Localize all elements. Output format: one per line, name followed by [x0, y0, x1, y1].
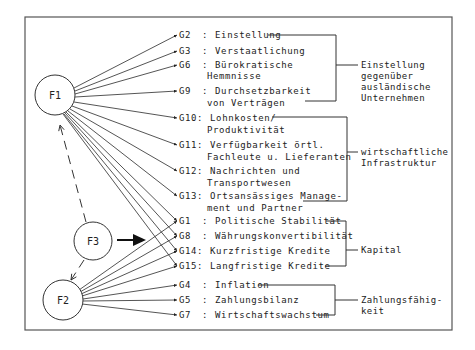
svg-text:ment und Partner: ment und Partner	[207, 203, 303, 213]
variable-g7: G7 :Wirtschaftswachstum	[179, 310, 329, 320]
svg-text:G10:Lohnkosten/: G10:Lohnkosten/	[179, 113, 276, 123]
svg-text:wirtschaftliche: wirtschaftliche	[361, 147, 448, 157]
group-label-zahlungsfaehigkeit: Zahlungsfähig- keit	[361, 295, 442, 316]
node-f3[interactable]: F3	[74, 222, 112, 260]
svg-text:G3 :Verstaatlichung: G3 :Verstaatlichung	[179, 46, 305, 56]
svg-text:G2 :Einstellung: G2 :Einstellung	[179, 30, 281, 40]
svg-text:G9 :Durchsetzbarkeit: G9 :Durchsetzbarkeit	[179, 86, 311, 96]
svg-text:Produktivität: Produktivität	[207, 125, 285, 135]
svg-text:Zahlungsfähig-: Zahlungsfähig-	[361, 295, 442, 305]
factor-diagram: F1 F3 F2 G2 :Einstellung G3 :Verstaatlic…	[0, 0, 475, 350]
variable-g15: G15:Langfristige Kredite	[179, 261, 330, 271]
variable-g4: G4 :Inflation	[179, 280, 269, 290]
svg-text:Hemmnisse: Hemmnisse	[207, 71, 261, 81]
svg-text:Einstellung: Einstellung	[361, 60, 425, 70]
node-f1[interactable]: F1	[35, 75, 75, 115]
svg-text:Transportwesen: Transportwesen	[207, 178, 291, 188]
variable-g9: G9 :Durchsetzbarkeit von Verträgen	[179, 86, 311, 108]
variable-g12: G12:Nachrichten und Transportwesen	[179, 166, 300, 188]
thick-arrow-f3	[117, 234, 146, 246]
svg-text:Fachleute u. Lieferanten: Fachleute u. Lieferanten	[207, 152, 351, 162]
variable-g11: G11:Verfügbarkeit örtl. Fachleute u. Lie…	[179, 140, 351, 162]
svg-text:ausländische: ausländische	[361, 82, 431, 92]
svg-text:Unternehmen: Unternehmen	[361, 93, 425, 103]
svg-text:von Verträgen: von Verträgen	[207, 98, 285, 108]
node-f1-label: F1	[49, 90, 61, 101]
variable-g13: G13:Ortsansässiges Manage- ment und Part…	[179, 191, 343, 213]
node-f2[interactable]: F2	[43, 280, 83, 320]
variable-g1: G1 :Politische Stabilität	[179, 216, 341, 226]
svg-text:G4 :Inflation: G4 :Inflation	[179, 280, 269, 290]
svg-text:Kapital: Kapital	[361, 245, 402, 255]
node-f3-label: F3	[87, 236, 99, 247]
svg-text:G13:Ortsansässiges Manage-: G13:Ortsansässiges Manage-	[179, 191, 343, 201]
bracket-kapital	[325, 221, 358, 266]
variable-g5: G5 :Zahlungsbilanz	[179, 295, 299, 305]
svg-text:gegenüber: gegenüber	[361, 71, 414, 81]
dashed-arrow-f3-to-f2	[71, 260, 84, 280]
group-label-infrastruktur: wirtschaftliche Infrastruktur	[361, 147, 448, 168]
svg-text:G7 :Wirtschaftswachstum: G7 :Wirtschaftswachstum	[179, 310, 329, 320]
svg-text:G11:Verfügbarkeit örtl.: G11:Verfügbarkeit örtl.	[179, 140, 324, 150]
svg-text:G5 :Zahlungsbilanz: G5 :Zahlungsbilanz	[179, 295, 299, 305]
group-label-kapital: Kapital	[361, 245, 402, 255]
svg-text:G8 :Währungskonvertibilität: G8 :Währungskonvertibilität	[179, 231, 354, 241]
variable-g3: G3 :Verstaatlichung	[179, 46, 305, 56]
variable-list: G2 :Einstellung G3 :Verstaatlichung G6 :…	[179, 30, 354, 320]
variable-g8: G8 :Währungskonvertibilität	[179, 231, 354, 241]
svg-text:G14:Kurzfristige Kredite: G14:Kurzfristige Kredite	[179, 246, 330, 256]
variable-g2: G2 :Einstellung	[179, 30, 281, 40]
svg-text:G6 :Bürokratische: G6 :Bürokratische	[179, 60, 293, 70]
variable-g10: G10:Lohnkosten/ Produktivität	[179, 113, 285, 135]
svg-text:G1 :Politische Stabilität: G1 :Politische Stabilität	[179, 216, 341, 226]
group-label-einstellung: Einstellung gegenüber ausländische Unter…	[361, 60, 431, 103]
svg-text:keit: keit	[361, 306, 384, 316]
node-f2-label: F2	[57, 295, 69, 306]
variable-g6: G6 :Bürokratische Hemmnisse	[179, 60, 293, 81]
svg-text:Infrastruktur: Infrastruktur	[361, 158, 437, 168]
variable-g14: G14:Kurzfristige Kredite	[179, 246, 330, 256]
svg-text:G12:Nachrichten und: G12:Nachrichten und	[179, 166, 300, 176]
svg-text:G15:Langfristige Kredite: G15:Langfristige Kredite	[179, 261, 330, 271]
